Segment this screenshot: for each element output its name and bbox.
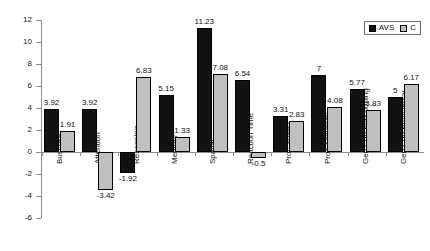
bar-avs-gen-cog-functioning[interactable] bbox=[350, 89, 365, 152]
y-tick-mark bbox=[36, 42, 41, 43]
bar-value-label: 3.92 bbox=[77, 99, 103, 107]
x-tick-mark bbox=[195, 152, 196, 156]
x-tick-mark bbox=[386, 152, 387, 156]
y-tick-label: 0 bbox=[2, 148, 32, 156]
bar-c-spatial[interactable] bbox=[213, 74, 228, 152]
bar-value-label: 6.83 bbox=[131, 67, 157, 75]
x-tick-mark bbox=[42, 152, 43, 156]
bar-avs-buschke[interactable] bbox=[44, 109, 59, 152]
bar-avs-spatial[interactable] bbox=[197, 28, 212, 152]
bar-c-proc-accuracy[interactable] bbox=[327, 107, 342, 152]
x-tick-mark bbox=[157, 152, 158, 156]
bar-value-label: -0.5 bbox=[246, 160, 272, 168]
bar-c-gen-cog-proficiency[interactable] bbox=[404, 84, 419, 152]
y-tick-mark bbox=[36, 152, 41, 153]
y-tick-label: 6 bbox=[2, 82, 32, 90]
y-tick-label: 12 bbox=[2, 16, 32, 24]
y-tick-label: 4 bbox=[2, 104, 32, 112]
bar-value-label: 3.92 bbox=[39, 99, 65, 107]
bar-c-buschke[interactable] bbox=[60, 131, 75, 152]
x-tick-mark bbox=[309, 152, 310, 156]
y-tick-label: 8 bbox=[2, 60, 32, 68]
x-tick-mark bbox=[118, 152, 119, 156]
bar-value-label: 7 bbox=[306, 65, 332, 73]
y-tick-mark bbox=[36, 64, 41, 65]
bar-avs-attention[interactable] bbox=[82, 109, 97, 152]
bar-value-label: -1.92 bbox=[115, 175, 141, 183]
bar-value-label: 6.54 bbox=[230, 70, 256, 78]
x-tick-mark bbox=[80, 152, 81, 156]
legend-swatch-c bbox=[400, 25, 407, 32]
legend-label-c: C bbox=[410, 24, 416, 32]
bar-value-label: 5.15 bbox=[153, 85, 179, 93]
y-tick-label: -4 bbox=[2, 192, 32, 200]
y-tick-mark bbox=[36, 20, 41, 21]
y-tick-mark bbox=[36, 108, 41, 109]
legend-swatch-avs bbox=[369, 25, 376, 32]
x-tick-mark bbox=[348, 152, 349, 156]
legend-label-avs: AVS bbox=[379, 24, 394, 32]
y-tick-mark bbox=[36, 86, 41, 87]
bar-avs-proc-accuracy[interactable] bbox=[311, 75, 326, 152]
bar-c-reasoning[interactable] bbox=[136, 77, 151, 152]
chart-legend: AVS C bbox=[364, 21, 421, 35]
y-tick-label: 2 bbox=[2, 126, 32, 134]
bar-avs-gen-cog-proficiency[interactable] bbox=[388, 97, 403, 152]
bar-avs-reaction-time[interactable] bbox=[235, 80, 250, 152]
chart-figure: 121086420-2-4-6 BuschkeAttentionReasonin… bbox=[0, 0, 430, 251]
bar-avs-proc-speed[interactable] bbox=[273, 116, 288, 152]
bar-value-label: 1.33 bbox=[169, 127, 195, 135]
y-tick-label: 10 bbox=[2, 38, 32, 46]
legend-entry-c[interactable]: C bbox=[400, 24, 416, 32]
bar-value-label: 3.83 bbox=[360, 100, 386, 108]
legend-entry-avs[interactable]: AVS bbox=[369, 24, 394, 32]
y-tick-label: -2 bbox=[2, 170, 32, 178]
bar-value-label: 5.77 bbox=[344, 79, 370, 87]
x-tick-mark bbox=[271, 152, 272, 156]
bar-c-memory[interactable] bbox=[175, 137, 190, 152]
bar-avs-reasoning[interactable] bbox=[120, 152, 135, 173]
bar-value-label: 1.91 bbox=[55, 121, 81, 129]
bar-c-reaction-time[interactable] bbox=[251, 152, 266, 158]
bar-value-label: 6.17 bbox=[398, 74, 424, 82]
bar-c-attention[interactable] bbox=[98, 152, 113, 190]
y-axis-line bbox=[41, 20, 42, 218]
bar-value-label: -3.42 bbox=[93, 192, 119, 200]
y-tick-mark bbox=[36, 130, 41, 131]
bar-c-gen-cog-functioning[interactable] bbox=[366, 110, 381, 152]
x-tick-mark bbox=[233, 152, 234, 156]
y-tick-mark bbox=[36, 196, 41, 197]
y-tick-mark bbox=[36, 174, 41, 175]
bar-value-label: 4.08 bbox=[322, 97, 348, 105]
bar-avs-memory[interactable] bbox=[159, 95, 174, 152]
bar-value-label: 11.23 bbox=[191, 18, 217, 26]
y-tick-label: -6 bbox=[2, 214, 32, 222]
bar-value-label: 2.83 bbox=[284, 111, 310, 119]
bar-c-proc-speed[interactable] bbox=[289, 121, 304, 152]
y-tick-mark bbox=[36, 218, 41, 219]
